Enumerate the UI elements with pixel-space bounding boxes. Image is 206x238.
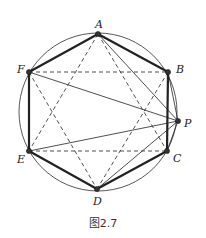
segment-PD: [97, 121, 178, 189]
segment-PE: [29, 121, 178, 151]
vertex-labels: ABCDEFP: [16, 18, 192, 208]
label-c: C: [173, 152, 182, 165]
label-p: P: [183, 117, 192, 130]
hexagon-edges: [29, 34, 168, 189]
dashed-segment-FD: [29, 72, 97, 189]
point-e: [26, 148, 31, 153]
dashed-triangles: [29, 34, 168, 189]
label-d: D: [92, 195, 102, 208]
label-f: F: [16, 63, 25, 76]
vertex-points: [26, 31, 180, 191]
point-f: [26, 69, 31, 74]
point-a: [95, 31, 100, 36]
hexagon-edge-BC: [167, 72, 168, 151]
dashed-segment-AE: [29, 34, 98, 151]
hexagon-edge-FA: [29, 34, 98, 72]
figure-caption: 图2.7: [0, 214, 206, 230]
hexagon-diagram: ABCDEFP: [0, 0, 206, 238]
point-d: [94, 186, 99, 191]
label-b: B: [175, 63, 184, 76]
point-b: [165, 69, 170, 74]
circumscribed-circle: [19, 33, 177, 191]
label-a: A: [94, 18, 103, 31]
segment-PB: [168, 72, 178, 121]
hexagon-edge-AB: [98, 34, 168, 72]
label-e: E: [16, 153, 25, 166]
point-c: [164, 148, 169, 153]
point-p: [175, 118, 180, 123]
